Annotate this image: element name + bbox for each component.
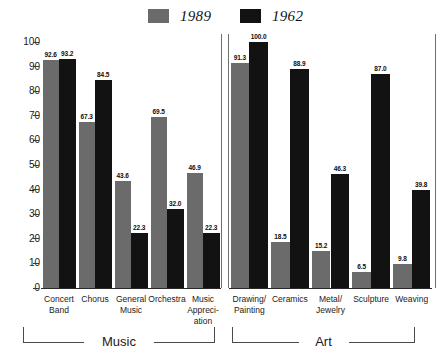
y-axis-tick-mark [33,165,39,166]
bracket-line-right [154,342,215,343]
bar-value-label: 87.0 [367,65,394,72]
y-axis-tick: 90 [6,62,40,72]
y-axis-tick-mark [33,66,39,67]
bar [249,42,268,288]
y-axis-tick: 30 [6,209,40,219]
y-axis-tick: 0 [6,283,40,293]
bar-value-label: 100.0 [245,33,272,40]
bar-value-label: 46.9 [183,164,208,171]
panel-border-right [435,34,436,288]
baseline [229,288,432,289]
plot-area: 1009080706050403020100 92.693.267.384.54… [0,0,438,361]
y-axis-tick: 60 [6,135,40,145]
bar [131,233,148,288]
bracket-tick-right [214,327,215,343]
bracket-tick-right [414,327,415,343]
y-axis-tick-mark [33,42,39,43]
bar [393,264,412,288]
y-axis-tick: 100 [6,37,40,47]
y-axis-tick: 50 [6,160,40,170]
bar [271,242,290,288]
bar-value-label: 32.0 [163,200,188,207]
bar-value-label: 22.3 [199,224,224,231]
y-axis-tick: 10 [6,258,40,268]
bar [59,59,76,288]
bar [43,60,60,288]
bar-value-label: 46.3 [327,165,354,172]
chart-container: 1989 1962 1009080706050403020100 92.693.… [0,0,438,361]
bar [312,251,331,288]
bar [371,74,390,288]
y-axis-tick-mark [33,189,39,190]
y-axis-tick: 80 [6,86,40,96]
bar [95,80,112,288]
baseline [41,288,221,289]
bar [203,233,220,288]
bracket-line-left [23,342,84,343]
y-axis-tick-mark [33,214,39,215]
section-name-label: Art [299,334,349,349]
bracket-line-left [232,342,299,343]
bar-value-label: 88.9 [286,60,313,67]
bar [167,209,184,288]
y-axis-tick-mark [33,288,39,289]
bar-value-label: 69.5 [147,108,172,115]
bar [331,174,350,288]
category-label: Weaving [385,294,438,305]
bar-value-label: 93.2 [55,50,80,57]
y-axis-tick-mark [33,140,39,141]
y-axis-tick-mark [33,263,39,264]
bar-value-label: 84.5 [91,71,116,78]
y-axis-tick: 40 [6,185,40,195]
bar-value-label: 39.8 [408,181,435,188]
y-axis-tick: 70 [6,111,40,121]
section-bracket: Art [232,327,415,349]
bar [115,181,132,288]
y-axis-tick-mark [33,238,39,239]
bar [290,69,309,288]
bar [352,272,371,288]
y-axis-tick: 20 [6,234,40,244]
category-label: Music Appreci- ation [179,294,227,327]
section-bracket: Music [23,327,215,349]
bar [412,190,431,288]
bar-value-label: 22.3 [127,224,152,231]
y-axis-tick-mark [33,91,39,92]
bar [231,63,250,288]
bracket-line-right [349,342,416,343]
bracket-tick-left [232,327,233,343]
bracket-tick-left [23,327,24,343]
panel-divider [221,34,222,288]
y-axis-tick-mark [33,115,39,116]
bar-value-label: 43.6 [111,172,136,179]
section-name-label: Music [84,334,154,349]
panel-divider [228,34,229,288]
bar [79,122,96,288]
